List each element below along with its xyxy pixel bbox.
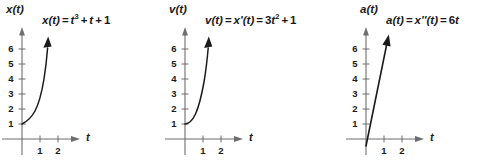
y-tick-label-3: 3: [169, 88, 179, 99]
curve-position: [22, 48, 48, 124]
y-tick-label-1: 1: [6, 118, 16, 129]
y-tick-label-6: 6: [350, 43, 360, 54]
curve-arrowhead-velocity: [204, 37, 212, 48]
x-axis-arrowhead: [415, 136, 424, 142]
x-tick-label-1: 1: [35, 145, 45, 156]
panel-velocity: v(t) v(t)=x'(t)=3t2+1 1 2 3 4 5 6 1: [163, 0, 326, 162]
plot-axes-acceleration: [324, 0, 487, 162]
y-tick-label-2: 2: [350, 103, 360, 114]
horizontal-axis-label: t: [249, 131, 253, 143]
plot-axes-velocity: [163, 0, 326, 162]
line-acceleration: [366, 46, 387, 147]
line-arrowhead-acceleration: [382, 35, 390, 47]
x-tick-label-1: 1: [198, 145, 208, 156]
three-graph-figure: x(t) x(t)=t3+t+1 1 2 3: [0, 0, 487, 162]
panel-acceleration: a(t) a(t)=x''(t)=6t 1 2 3 4 5 6 1: [324, 0, 487, 162]
y-tick-label-4: 4: [350, 73, 360, 84]
horizontal-axis-label: t: [430, 131, 434, 143]
plot-axes-position: [0, 0, 163, 162]
y-tick-label-1: 1: [350, 118, 360, 129]
x-tick-label-2: 2: [216, 145, 226, 156]
curve-arrowhead-position: [43, 37, 51, 48]
y-tick-label-2: 2: [6, 103, 16, 114]
y-tick-label-5: 5: [6, 58, 16, 69]
x-tick-label-2: 2: [397, 145, 407, 156]
y-tick-label-2: 2: [169, 103, 179, 114]
curve-velocity: [185, 48, 208, 124]
y-tick-label-1: 1: [169, 118, 179, 129]
x-tick-label-1: 1: [379, 145, 389, 156]
y-axis-arrowhead: [182, 27, 188, 36]
y-tick-label-6: 6: [169, 43, 179, 54]
y-tick-label-5: 5: [169, 58, 179, 69]
horizontal-axis-label: t: [86, 131, 90, 143]
panel-position: x(t) x(t)=t3+t+1 1 2 3: [0, 0, 163, 162]
y-tick-label-3: 3: [350, 88, 360, 99]
y-tick-label-6: 6: [6, 43, 16, 54]
y-tick-label-3: 3: [6, 88, 16, 99]
y-axis-arrowhead: [19, 27, 25, 36]
x-axis-arrowhead: [234, 136, 243, 142]
x-axis-arrowhead: [71, 136, 80, 142]
y-axis-arrowhead: [363, 27, 369, 36]
y-tick-label-4: 4: [169, 73, 179, 84]
y-tick-label-4: 4: [6, 73, 16, 84]
y-tick-label-5: 5: [350, 58, 360, 69]
x-tick-label-2: 2: [53, 145, 63, 156]
